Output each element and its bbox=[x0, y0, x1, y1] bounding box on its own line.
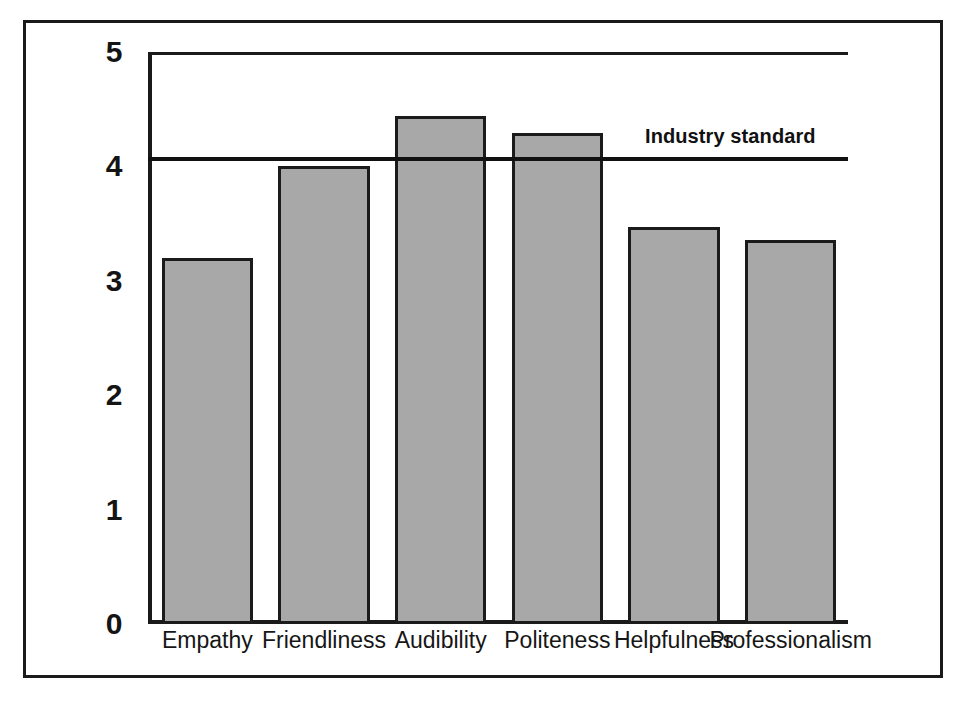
x-axis-label-audibility: Audibility bbox=[395, 628, 487, 653]
bar-empathy bbox=[162, 258, 254, 624]
industry-standard-line bbox=[148, 157, 848, 161]
x-axis-label-politeness: Politeness bbox=[504, 628, 610, 653]
bar-chart: 012345 Industry standard EmpathyFriendli… bbox=[0, 0, 964, 701]
bar-politeness bbox=[512, 133, 604, 624]
bar-professionalism bbox=[745, 240, 837, 624]
industry-standard-label: Industry standard bbox=[645, 125, 816, 148]
x-axis: EmpathyFriendlinessAudibilityPolitenessH… bbox=[0, 628, 964, 668]
bar-audibility bbox=[395, 116, 487, 624]
x-axis-label-empathy: Empathy bbox=[162, 628, 253, 653]
x-axis-label-friendliness: Friendliness bbox=[262, 628, 386, 653]
x-axis-label-professionalism: Professionalism bbox=[709, 628, 871, 653]
bar-helpfulness bbox=[628, 227, 720, 624]
bar-friendliness bbox=[278, 166, 370, 624]
bars-layer bbox=[0, 0, 964, 701]
